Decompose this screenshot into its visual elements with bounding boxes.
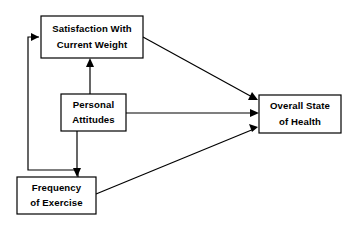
satisfaction-with-current-weight-label-line2: Current Weight bbox=[57, 39, 128, 50]
diagram-canvas: Satisfaction With Current Weight Persona… bbox=[0, 0, 362, 227]
arrow-attitudes-to-health bbox=[126, 109, 259, 117]
overall-state-of-health-label-line2: of Health bbox=[279, 116, 321, 127]
arrow-attitudes-to-satisfaction-head bbox=[86, 58, 94, 67]
node-satisfaction-with-current-weight[interactable]: Satisfaction With Current Weight bbox=[41, 16, 143, 58]
node-overall-state-of-health[interactable]: Overall State of Health bbox=[259, 95, 341, 133]
arrow-exercise-to-health-line bbox=[96, 129, 254, 194]
satisfaction-with-current-weight-label-line1: Satisfaction With bbox=[52, 23, 131, 34]
arrow-attitudes-to-satisfaction bbox=[86, 58, 94, 94]
path-model-diagram: Satisfaction With Current Weight Persona… bbox=[0, 0, 362, 227]
arrow-exercise-to-satisfaction-head bbox=[31, 33, 39, 41]
arrow-attitudes-to-health-head bbox=[250, 109, 259, 117]
arrow-attitudes-to-exercise-head bbox=[73, 168, 81, 177]
arrow-satisfaction-to-health bbox=[143, 37, 258, 100]
frequency-of-exercise-label-line2: of Exercise bbox=[30, 197, 82, 208]
node-personal-attitudes[interactable]: Personal Attitudes bbox=[61, 94, 126, 131]
arrow-exercise-to-health bbox=[96, 124, 258, 194]
nodes-layer: Satisfaction With Current Weight Persona… bbox=[17, 16, 341, 214]
arrow-attitudes-to-exercise bbox=[73, 131, 81, 177]
personal-attitudes-label-line1: Personal bbox=[73, 99, 114, 110]
personal-attitudes-label-line2: Attitudes bbox=[72, 114, 114, 125]
frequency-of-exercise-label-line1: Frequency bbox=[32, 182, 82, 193]
overall-state-of-health-label-line1: Overall State bbox=[270, 100, 330, 111]
node-frequency-of-exercise[interactable]: Frequency of Exercise bbox=[17, 177, 96, 214]
arrow-satisfaction-to-health-line bbox=[143, 37, 254, 98]
